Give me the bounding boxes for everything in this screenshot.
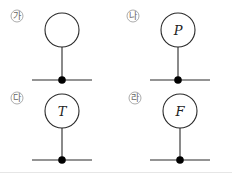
junction-dot-icon: [58, 76, 66, 84]
junction-dot-icon: [174, 76, 182, 84]
instrument-symbol: F: [174, 104, 185, 119]
panel-ra: 라 F: [129, 92, 210, 164]
panel-ga: 가: [11, 10, 92, 84]
panel-da: 다 T: [11, 92, 92, 164]
panel-label: 다: [13, 93, 22, 103]
panel-na: 나 P: [127, 10, 210, 84]
instrument-symbol: P: [173, 23, 183, 38]
junction-dot-icon: [58, 156, 66, 164]
panel-label: 라: [131, 93, 140, 103]
gauge-circle: [45, 13, 79, 47]
instrument-symbol: T: [58, 104, 68, 119]
panel-label: 가: [13, 11, 21, 21]
panel-label: 나: [129, 11, 137, 21]
junction-dot-icon: [176, 156, 184, 164]
diagram-canvas: 가 나 P 다 T 라 F: [0, 0, 232, 175]
